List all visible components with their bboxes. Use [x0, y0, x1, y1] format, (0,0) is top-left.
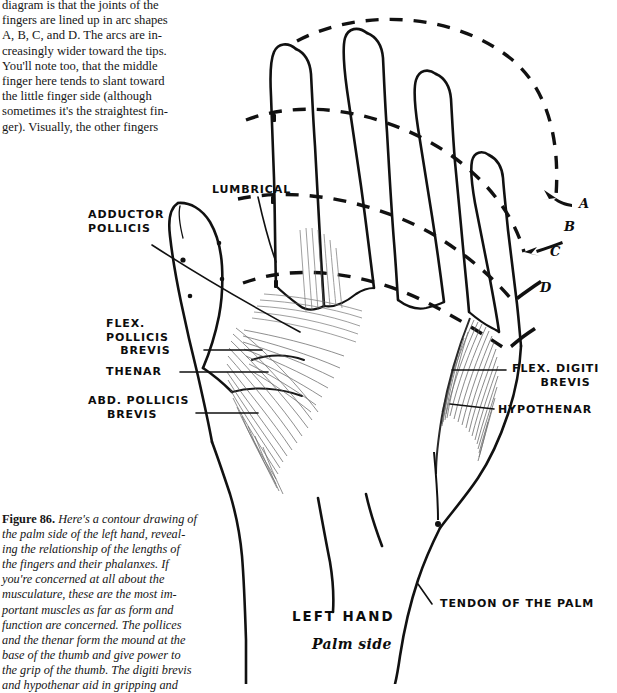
palm-and-wrist-outline [203, 346, 521, 684]
label-adductor-pollicis: ADDUCTOR POLLICIS [88, 208, 164, 235]
middle-finger-outline [344, 29, 398, 300]
label-arc-b: B [564, 220, 575, 234]
knuckle-contours [276, 286, 499, 332]
leader-lumbrical [258, 197, 276, 262]
palm-creases [232, 356, 304, 397]
label-thenar: THENAR [106, 365, 162, 379]
label-hypothenar: HYPOTHENAR [498, 403, 592, 417]
leader-tendon-of-palm [418, 584, 432, 604]
label-flexor-pollicis-brevis: FLEX. POLLICIS BREVIS [106, 317, 171, 358]
arrow-A [541, 190, 556, 200]
label-lumbrical: LUMBRICAL [212, 183, 291, 197]
thenar-muscle-shading [227, 328, 344, 494]
hypothenar-muscle-shading [442, 320, 498, 461]
arrow-A-tail [554, 198, 572, 207]
label-leader-lines [152, 197, 506, 604]
index-finger-outline [270, 44, 324, 306]
arc-C [238, 194, 512, 300]
label-arc-c: C [550, 245, 560, 259]
label-arc-a: A [579, 197, 589, 211]
label-tendon-of-the-palm: TENDON OF THE PALM [440, 597, 594, 611]
adductor-pollicis-shading [252, 228, 362, 342]
label-abd-pollicis-brevis: ABD. POLLICIS BREVIS [88, 394, 189, 421]
label-flexor-digiti-brevis: FLEX. DIGITI BREVIS [512, 362, 599, 389]
diagram-subtitle: Palm side [312, 638, 392, 652]
label-arc-d: D [540, 281, 551, 295]
arc-B [246, 109, 524, 252]
tick-D [510, 327, 536, 348]
ring-finger-outline [415, 71, 469, 312]
tendon-of-palm-stroke [434, 452, 441, 527]
little-finger-outline [471, 152, 521, 346]
diagram-title: LEFT HAND [292, 610, 395, 624]
tick-C [516, 280, 542, 300]
arc-A [297, 19, 557, 196]
